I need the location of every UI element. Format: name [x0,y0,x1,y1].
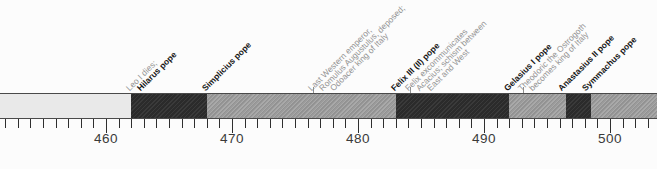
axis-tick-495 [547,119,548,128]
axis-label-480: 480 [328,131,388,146]
axis-tick-476 [308,119,309,128]
axis-tick-478 [333,119,334,128]
axis-tick-462 [131,119,132,128]
axis-tick-456 [56,119,57,128]
axis-tick-453 [18,119,19,128]
axis-tick-452 [5,119,6,128]
timeline-segment-unlabeled [0,94,131,118]
axis-tick-483 [396,119,397,128]
timeline-bar [0,93,657,119]
axis-tick-459 [93,119,94,128]
timeline-segment-gelasius-i [509,94,566,118]
timeline-segment-anastasius-ii [566,94,591,118]
axis-tick-491 [497,119,498,128]
axis-tick-492 [509,119,510,128]
axis-tick-457 [68,119,69,128]
axis-label-460: 460 [76,131,136,146]
axis-tick-501 [623,119,624,128]
timeline-segment-felix-iii-ii [396,94,509,118]
axis-tick-494 [534,119,535,128]
axis-tick-464 [156,119,157,128]
axis-tick-474 [282,119,283,128]
timeline-segment-simplicius [207,94,396,118]
axis-tick-482 [383,119,384,128]
axis-tick-468 [207,119,208,128]
axis-tick-489 [471,119,472,128]
axis-tick-454 [30,119,31,128]
axis-label-470: 470 [202,131,262,146]
axis-tick-488 [459,119,460,128]
axis-tick-461 [119,119,120,128]
axis-tick-485 [421,119,422,128]
axis-tick-481 [371,119,372,128]
timeline-segment-hilarus [131,94,207,118]
axis-tick-503 [648,119,649,128]
axis-tick-466 [182,119,183,128]
axis-tick-475 [295,119,296,128]
axis-tick-484 [408,119,409,128]
axis-tick-496 [560,119,561,128]
axis-tick-458 [81,119,82,128]
axis-tick-498 [585,119,586,128]
axis-tick-493 [522,119,523,128]
axis-tick-469 [219,119,220,128]
annotation-text: Romulus Augustulus, deposed; [317,3,407,93]
axis-tick-473 [270,119,271,128]
axis-tick-497 [572,119,573,128]
axis-tick-455 [43,119,44,128]
axis-tick-486 [434,119,435,128]
axis-tick-499 [597,119,598,128]
axis-label-490: 490 [454,131,514,146]
axis-tick-465 [169,119,170,128]
axis-tick-487 [446,119,447,128]
axis-tick-502 [635,119,636,128]
axis-tick-477 [320,119,321,128]
timeline-figure: Leo I dies;Hilarus popeSimplicius popeLa… [0,0,657,169]
axis-tick-471 [245,119,246,128]
axis-label-500: 500 [580,131,640,146]
axis-tick-479 [345,119,346,128]
annotation-text: Simplicius pope [200,40,253,93]
axis-tick-467 [194,119,195,128]
axis-tick-472 [257,119,258,128]
annotation-text: Theodoric the Ostrogoth [516,21,588,93]
timeline-segment-symmachus [591,94,657,118]
axis-tick-463 [144,119,145,128]
